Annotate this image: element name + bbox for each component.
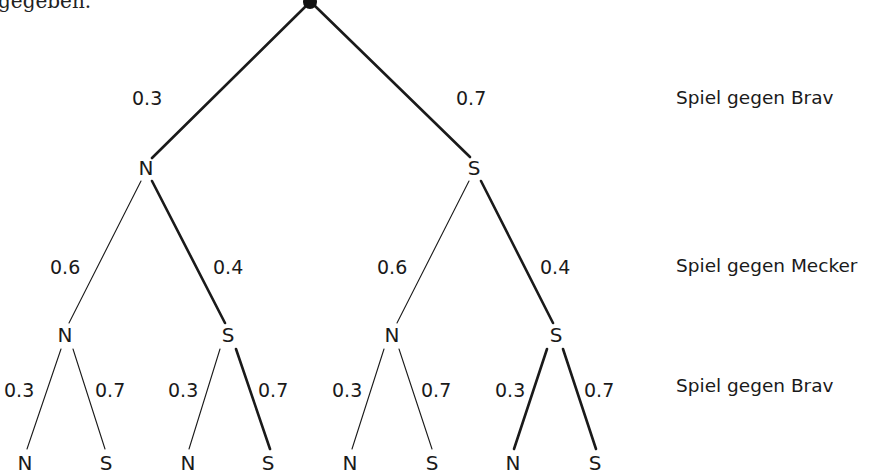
tree-edge-highlighted [481,181,553,323]
tree-edge [69,181,141,323]
tree-edge-highlighted [315,6,470,157]
tree-node-n: N [343,453,358,473]
tree-node-n: N [385,325,400,345]
level-label-1: Spiel gegen Brav [676,89,833,108]
edge-probability: 0.3 [332,381,362,400]
edge-probability: 0.7 [456,89,486,108]
tree-edge [397,181,469,323]
edge-probability: 0.6 [377,258,407,277]
tree-edge-highlighted [152,181,225,323]
tree-edge-highlighted [152,6,306,158]
edge-probability: 0.6 [50,258,80,277]
tree-node-s: S [426,453,439,473]
edge-probability: 0.3 [495,381,525,400]
edge-probability: 0.7 [421,381,451,400]
tree-node-s: S [222,325,235,345]
tree-node-n: N [139,158,154,178]
tree-node-s: S [262,453,275,473]
edge-probability: 0.3 [168,381,198,400]
edge-probability: 0.3 [4,381,34,400]
tree-node-n: N [18,453,33,473]
tree-node-n: N [506,453,521,473]
edge-probability: 0.4 [213,258,243,277]
tree-node-s: S [589,453,602,473]
tree-node-n: N [58,325,73,345]
edge-probability: 0.3 [132,89,162,108]
edge-probability: 0.7 [584,381,614,400]
edge-probability: 0.7 [258,381,288,400]
tree-node-n: N [181,453,196,473]
tree-node-s: S [100,453,113,473]
level-label-3: Spiel gegen Brav [676,377,833,396]
level-label-2: Spiel gegen Mecker [676,257,857,276]
edge-probability: 0.7 [95,381,125,400]
tree-node-s: S [468,158,481,178]
edge-probability: 0.4 [540,258,570,277]
probability-tree [0,0,872,474]
tree-node-s: S [550,325,563,345]
